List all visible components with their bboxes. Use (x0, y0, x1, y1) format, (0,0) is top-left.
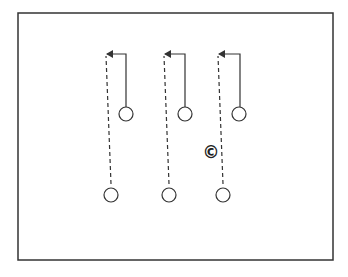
player-circle-back-3 (216, 188, 230, 202)
player-circle-front-2 (178, 107, 192, 121)
diagram-frame (18, 13, 333, 260)
drill-diagram: © (0, 0, 348, 277)
coach-marker: © (203, 142, 220, 162)
player-circle-front-1 (119, 107, 133, 121)
player-circle-front-3 (232, 107, 246, 121)
player-circle-back-2 (162, 188, 176, 202)
player-circle-back-1 (104, 188, 118, 202)
